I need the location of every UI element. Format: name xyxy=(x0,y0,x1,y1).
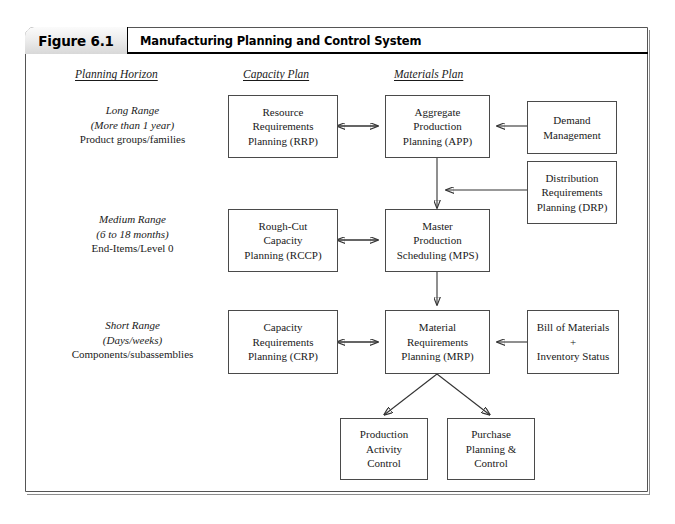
figure-title: Manufacturing Planning and Control Syste… xyxy=(140,27,421,54)
box-app-line3: Planning (APP) xyxy=(403,134,472,149)
box-mps-line2: Production xyxy=(397,233,479,248)
box-distribution-requirements-planning[interactable]: Distribution Requirements Planning (DRP) xyxy=(527,161,617,224)
box-material-requirements-planning[interactable]: Material Requirements Planning (MRP) xyxy=(385,310,490,374)
row-label-short-range-line2: (Days/weeks) xyxy=(35,333,230,348)
box-rrp-line1: Resource xyxy=(248,105,318,120)
box-mrp-line2: Requirements xyxy=(401,335,473,350)
box-crp-line1: Capacity xyxy=(248,320,318,335)
row-label-short-range: Short Range (Days/weeks) Components/suba… xyxy=(35,318,230,362)
row-label-medium-range: Medium Range (6 to 18 months) End-Items/… xyxy=(45,212,220,256)
box-aggregate-production-planning[interactable]: Aggregate Production Planning (APP) xyxy=(385,95,490,158)
box-rccp-line1: Rough-Cut xyxy=(244,219,321,234)
box-purchase-planning-control[interactable]: Purchase Planning & Control xyxy=(447,418,535,480)
box-mrp-line3: Planning (MRP) xyxy=(401,349,473,364)
box-master-production-scheduling[interactable]: Master Production Scheduling (MPS) xyxy=(385,209,490,272)
box-demand-line1: Demand xyxy=(543,113,600,128)
row-label-long-range-line2: (More than 1 year) xyxy=(45,118,220,133)
column-header-materials-plan: Materials Plan xyxy=(394,68,463,80)
box-crp-line3: Planning (CRP) xyxy=(248,349,318,364)
box-bom-line2: + xyxy=(537,335,610,350)
box-rccp-line3: Planning (RCCP) xyxy=(244,248,321,263)
box-mps-line3: Scheduling (MPS) xyxy=(397,248,479,263)
box-mps-line1: Master xyxy=(397,219,479,234)
row-label-long-range: Long Range (More than 1 year) Product gr… xyxy=(45,103,220,147)
box-rrp-line2: Requirements xyxy=(248,119,318,134)
figure-number-tab: Figure 6.1 xyxy=(25,27,128,54)
box-app-line1: Aggregate xyxy=(403,105,472,120)
box-drp-line3: Planning (DRP) xyxy=(537,200,608,215)
row-label-medium-range-line2: (6 to 18 months) xyxy=(45,227,220,242)
row-label-short-range-line1: Short Range xyxy=(35,318,230,333)
box-app-line2: Production xyxy=(403,119,472,134)
box-ppc-line1: Purchase xyxy=(466,427,516,442)
box-ppc-line3: Control xyxy=(466,456,516,471)
box-mrp-line1: Material xyxy=(401,320,473,335)
row-label-long-range-line3: Product groups/families xyxy=(45,132,220,147)
box-pac-line3: Control xyxy=(360,456,408,471)
column-header-capacity-plan: Capacity Plan xyxy=(243,68,309,80)
column-header-planning-horizon: Planning Horizon xyxy=(75,68,158,80)
box-ppc-line2: Planning & xyxy=(466,442,516,457)
box-bill-of-materials-inventory-status[interactable]: Bill of Materials + Inventory Status xyxy=(527,310,619,374)
box-rccp-line2: Capacity xyxy=(244,233,321,248)
box-crp-line2: Requirements xyxy=(248,335,318,350)
box-rough-cut-capacity-planning[interactable]: Rough-Cut Capacity Planning (RCCP) xyxy=(228,209,338,272)
box-drp-line2: Requirements xyxy=(537,185,608,200)
box-bom-line1: Bill of Materials xyxy=(537,320,610,335)
figure-number-label: Figure 6.1 xyxy=(38,33,114,49)
box-production-activity-control[interactable]: Production Activity Control xyxy=(340,418,428,480)
box-rrp-line3: Planning (RRP) xyxy=(248,134,318,149)
box-drp-line1: Distribution xyxy=(537,171,608,186)
box-pac-line2: Activity xyxy=(360,442,408,457)
box-resource-requirements-planning[interactable]: Resource Requirements Planning (RRP) xyxy=(228,95,338,158)
row-label-medium-range-line1: Medium Range xyxy=(45,212,220,227)
box-bom-line3: Inventory Status xyxy=(537,349,610,364)
row-label-medium-range-line3: End-Items/Level 0 xyxy=(45,241,220,256)
row-label-short-range-line3: Components/subassemblies xyxy=(35,347,230,362)
box-pac-line1: Production xyxy=(360,427,408,442)
row-label-long-range-line1: Long Range xyxy=(45,103,220,118)
box-capacity-requirements-planning[interactable]: Capacity Requirements Planning (CRP) xyxy=(228,310,338,374)
figure-diagram: Figure 6.1 Manufacturing Planning and Co… xyxy=(0,0,675,524)
box-demand-line2: Management xyxy=(543,128,600,143)
box-demand-management[interactable]: Demand Management xyxy=(527,101,617,154)
